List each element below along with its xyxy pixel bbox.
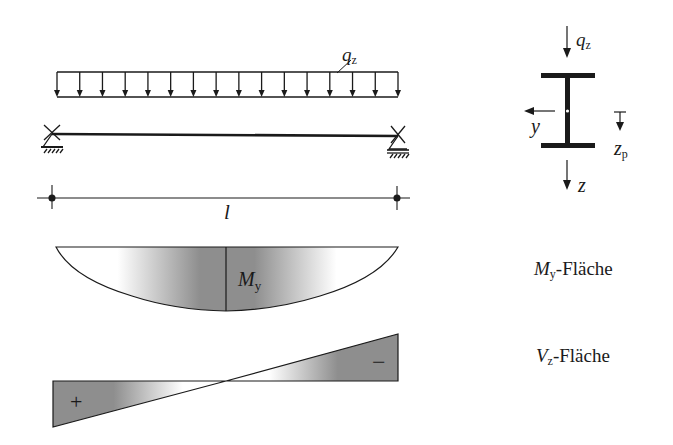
- moment-area: [56, 247, 398, 311]
- y-axis-label: y: [529, 115, 540, 138]
- load-arrow-head-icon: [99, 90, 105, 97]
- load-arrow-head-icon: [259, 90, 265, 97]
- beam: [52, 134, 398, 136]
- load-arrow-head-icon: [372, 90, 378, 97]
- load-arrow-head-icon: [122, 90, 128, 97]
- load-arrow-head-icon: [327, 90, 333, 97]
- beam-line: [52, 134, 398, 136]
- moment-parabola: [56, 247, 398, 311]
- moment-area-caption: My-Fläche: [534, 258, 613, 282]
- shear-area: [53, 334, 398, 427]
- load-arrow-head-icon: [145, 90, 151, 97]
- load-arrow-head-icon: [281, 90, 287, 97]
- load-arrow-head-icon: [168, 90, 174, 97]
- zp-label: zp: [613, 137, 628, 161]
- load-arrow-head-icon: [190, 90, 196, 97]
- support-right-roller: [387, 126, 409, 158]
- load-arrows: [54, 72, 401, 97]
- section-load-label: qz: [576, 29, 591, 52]
- z-axis-label: z: [577, 174, 586, 196]
- load-arrow-head-icon: [304, 90, 310, 97]
- y-axis-arrow: [524, 107, 555, 115]
- diagram-canvas: qz: [0, 0, 673, 445]
- span-label: l: [224, 200, 230, 224]
- section-load-arrow: [563, 26, 571, 58]
- load-arrow-head-icon: [54, 90, 60, 97]
- load-arrow-head-icon: [213, 90, 219, 97]
- load-arrow-head-icon: [77, 90, 83, 97]
- shear-negative-sign: −: [372, 349, 386, 375]
- z-axis-arrow: [563, 160, 571, 190]
- shear-area-caption: Vz-Fläche: [536, 345, 610, 369]
- zp-marker: [614, 112, 626, 131]
- load-label: qz: [342, 44, 357, 67]
- support-left-pinned: [41, 125, 63, 153]
- shear-positive-sign: +: [70, 389, 82, 414]
- load-arrow-head-icon: [236, 90, 242, 97]
- distributed-load: [54, 60, 401, 97]
- beam-diagram: qz: [0, 0, 673, 445]
- centroid-dot: [566, 109, 569, 112]
- load-arrow-head-icon: [395, 90, 401, 97]
- load-arrow-head-icon: [350, 90, 356, 97]
